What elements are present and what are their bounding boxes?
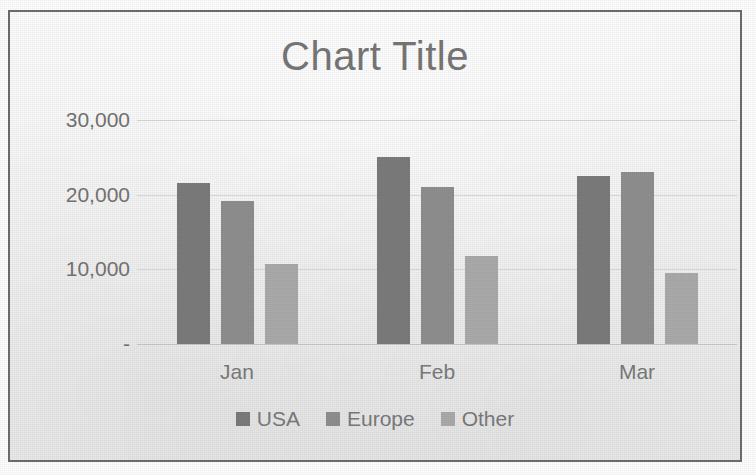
y-axis: 30,00020,00010,000- — [18, 120, 130, 344]
legend-swatch-icon — [441, 412, 455, 426]
axis-baseline — [137, 344, 737, 345]
x-axis: JanFebMar — [137, 360, 737, 394]
bar-jan-other — [265, 264, 298, 344]
chart-frame: Chart Title 30,00020,00010,000- JanFebMa… — [8, 10, 742, 462]
legend-label: Europe — [347, 408, 415, 429]
bar-jan-usa — [177, 183, 210, 344]
bar-feb-other — [465, 256, 498, 344]
chart-image: Chart Title 30,00020,00010,000- JanFebMa… — [0, 0, 756, 475]
bar-group — [537, 120, 737, 344]
y-axis-tick-label: - — [26, 333, 130, 354]
bar-group — [137, 120, 337, 344]
bar-mar-usa — [577, 176, 610, 344]
legend-label: Other — [462, 408, 515, 429]
y-axis-tick-label: 10,000 — [26, 258, 130, 279]
y-axis-tick-label: 20,000 — [26, 184, 130, 205]
chart-legend: USAEuropeOther — [10, 408, 740, 429]
legend-item-other[interactable]: Other — [441, 408, 515, 429]
bar-group — [337, 120, 537, 344]
plot-area — [137, 120, 737, 344]
bar-mar-europe — [621, 172, 654, 344]
legend-label: USA — [257, 408, 300, 429]
y-axis-tick-label: 30,000 — [26, 109, 130, 130]
legend-swatch-icon — [326, 412, 340, 426]
x-axis-category-label: Jan — [137, 360, 337, 384]
chart-title: Chart Title — [10, 34, 740, 79]
legend-item-europe[interactable]: Europe — [326, 408, 415, 429]
bar-jan-europe — [221, 201, 254, 344]
legend-swatch-icon — [236, 412, 250, 426]
x-axis-category-label: Mar — [537, 360, 737, 384]
legend-item-usa[interactable]: USA — [236, 408, 300, 429]
bar-feb-usa — [377, 157, 410, 344]
bar-mar-other — [665, 273, 698, 344]
x-axis-category-label: Feb — [337, 360, 537, 384]
bar-feb-europe — [421, 187, 454, 344]
